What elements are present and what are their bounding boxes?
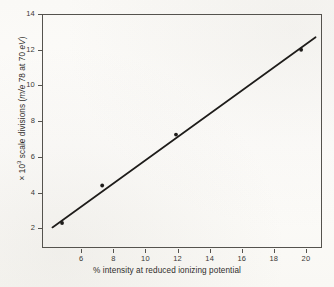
data-point <box>60 221 64 225</box>
x-tick-label: 20 <box>294 254 318 263</box>
data-point <box>100 184 104 188</box>
figure-canvas: 2468101214 68101214161820 × 103 scale di… <box>0 0 334 287</box>
x-axis-title-text: intensity at reduced ionizing potential <box>100 266 241 275</box>
y-axis-title-suffix: ) <box>18 37 27 40</box>
fit-line <box>52 37 315 227</box>
data-point <box>299 48 303 52</box>
y-axis-title-mass-charge: m/e <box>18 85 27 99</box>
x-tick-mark <box>210 249 211 253</box>
x-tick-label: 8 <box>101 254 125 263</box>
x-tick-label: 10 <box>133 254 157 263</box>
x-tick-mark <box>242 249 243 253</box>
x-tick-mark <box>145 249 146 253</box>
y-tick-label: 2 <box>0 223 35 232</box>
x-tick-mark <box>113 249 114 253</box>
x-tick-label: 14 <box>198 254 222 263</box>
y-axis-title-prefix: × 10 <box>18 164 27 181</box>
data-points <box>60 48 303 225</box>
x-tick-label: 18 <box>262 254 286 263</box>
y-axis-title-energy-unit: eV <box>18 39 27 49</box>
data-point <box>174 133 178 137</box>
x-tick-label: 12 <box>166 254 190 263</box>
plot-area <box>42 14 322 248</box>
y-axis-title-exponent: 3 <box>16 161 22 164</box>
y-axis-title-main: scale divisions ( <box>18 99 27 161</box>
x-axis-title: % intensity at reduced ionizing potentia… <box>0 266 334 275</box>
x-tick-mark <box>306 249 307 253</box>
x-tick-label: 16 <box>230 254 254 263</box>
y-axis-title-mid: 78 at 70 <box>18 50 27 85</box>
x-tick-mark <box>274 249 275 253</box>
fit-line-segment <box>52 37 315 227</box>
x-tick-label: 6 <box>69 254 93 263</box>
y-axis-title: × 103 scale divisions (m/e 78 at 70 eV) <box>18 9 27 209</box>
x-tick-mark <box>81 249 82 253</box>
x-tick-mark <box>178 249 179 253</box>
